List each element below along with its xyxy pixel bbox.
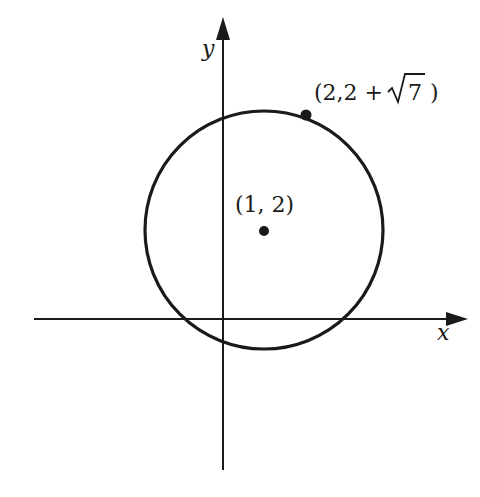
center-label: (1, 2) (235, 192, 294, 217)
point-on-circle (301, 110, 312, 121)
point-label-prefix: (2,2 + (314, 80, 383, 105)
point-label-suffix: ) (430, 80, 439, 105)
point-label-radicand: 7 (408, 80, 422, 105)
y-axis-arrow-icon (216, 17, 230, 40)
coordinate-diagram: y x (1, 2) (2,2 + 7 ) (0, 0, 480, 497)
point-label: (2,2 + 7 ) (314, 74, 439, 105)
y-axis-label: y (201, 36, 215, 61)
x-axis-label: x (437, 320, 450, 345)
center-point (259, 226, 269, 236)
